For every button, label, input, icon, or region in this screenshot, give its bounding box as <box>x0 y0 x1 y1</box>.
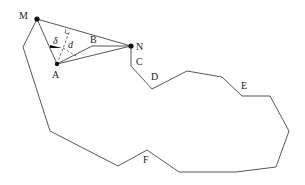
label-D: D <box>151 72 158 82</box>
point-A <box>55 62 59 66</box>
point-N <box>128 43 133 48</box>
label-A: A <box>52 70 59 80</box>
label-B: B <box>90 35 97 45</box>
label-F: F <box>143 155 149 165</box>
segment-MN <box>37 19 131 46</box>
label-M: M <box>19 11 28 21</box>
label-C: C <box>136 57 143 67</box>
label-delta: δ <box>53 36 58 46</box>
boundary-outline <box>23 19 289 172</box>
geometry-diagram: M N A B C D E F δ d <box>0 0 305 185</box>
diagram-canvas <box>0 0 305 185</box>
label-d: d <box>68 40 73 50</box>
label-N: N <box>136 42 143 52</box>
label-E: E <box>241 81 247 91</box>
point-M <box>34 16 39 21</box>
segment-AB <box>57 46 92 64</box>
